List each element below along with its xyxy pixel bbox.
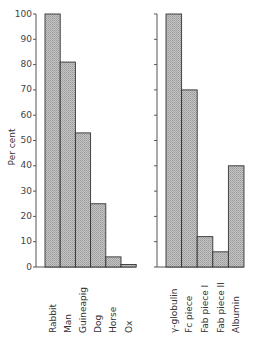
y-tick-label: 60 xyxy=(21,110,33,120)
left-panel-species: 0102030405060708090100RabbitManGuineapig… xyxy=(15,9,136,334)
bar--globulin xyxy=(166,14,182,267)
bar-horse xyxy=(106,257,121,267)
y-tick-label: 40 xyxy=(21,160,33,170)
chart-figure: 0102030405060708090100RabbitManGuineapig… xyxy=(0,0,256,340)
bar-ox xyxy=(121,264,136,267)
bar-albumin xyxy=(228,166,244,267)
y-tick-label: 0 xyxy=(26,262,32,272)
category-label: Dog xyxy=(93,315,103,333)
category-label: Fc piece xyxy=(184,295,194,333)
y-axis-label: Per cent xyxy=(7,128,17,165)
category-label: Man xyxy=(63,314,73,333)
y-tick-label: 80 xyxy=(21,59,33,69)
bar-fab-piece-ii xyxy=(213,252,229,267)
bar-dog xyxy=(91,204,106,267)
y-tick-label: 90 xyxy=(21,34,33,44)
category-label: Ox xyxy=(124,320,134,333)
bar-fab-piece-i xyxy=(197,237,213,267)
bar-rabbit xyxy=(45,14,60,267)
category-label: Rabbit xyxy=(48,304,58,333)
category-label: Fab piece II xyxy=(216,282,226,333)
category-label: Horse xyxy=(108,306,118,333)
bar-man xyxy=(60,62,75,267)
y-tick-label: 30 xyxy=(21,186,33,196)
y-tick-label: 20 xyxy=(21,211,33,221)
category-label: γ-globulin xyxy=(169,289,179,333)
category-label: Albumin xyxy=(231,296,241,333)
y-tick-label: 100 xyxy=(15,9,32,19)
bar-guineapig xyxy=(75,133,90,267)
y-tick-label: 50 xyxy=(21,135,33,145)
bar-fc-piece xyxy=(182,90,198,267)
category-label: Guineapig xyxy=(78,287,88,333)
right-panel-fragments: γ-globulinFc pieceFab piece IFab piece I… xyxy=(154,14,244,333)
category-label: Fab piece I xyxy=(200,285,210,333)
y-tick-label: 70 xyxy=(21,84,33,94)
y-tick-label: 10 xyxy=(21,236,33,246)
